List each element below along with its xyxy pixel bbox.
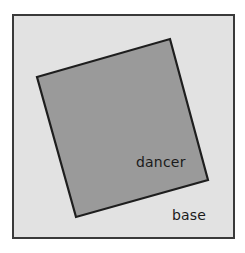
diagram-svg: dancer base [0,0,245,253]
dancer-label: dancer [136,154,186,170]
figure-canvas: dancer base [0,0,245,253]
base-label: base [172,207,206,223]
